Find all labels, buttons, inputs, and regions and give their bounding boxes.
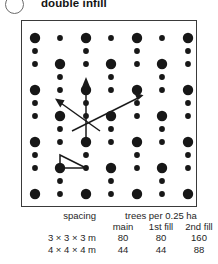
arrowheads: [55, 77, 144, 108]
table-header-row-2: main 1st fill 2nd fill: [0, 221, 218, 232]
planting-pattern-diagram: [21, 20, 197, 207]
cell-second-fill: 88: [180, 244, 218, 256]
table-row: 3 × 3 × 3 m 80 80 160: [0, 232, 218, 244]
cell-main: 80: [104, 232, 142, 244]
triangular-lattice-svg: [22, 21, 198, 208]
cell-spacing: 3 × 3 × 3 m: [0, 232, 104, 244]
column-header-first-fill: 1st fill: [142, 221, 180, 232]
spacing-data-table: spacing trees per 0.25 ha main 1st fill …: [0, 210, 218, 256]
figure-title: double infill: [41, 0, 107, 12]
spacing-header-spacer: [0, 221, 104, 232]
main-tree-dots: [30, 33, 193, 199]
spacing-direction-arrows: [58, 81, 140, 143]
figure-title-row: double infill: [0, 0, 218, 15]
table-row: 4 × 4 × 4 m 44 44 88: [0, 244, 218, 256]
cell-main: 44: [104, 244, 142, 256]
cell-second-fill: 160: [180, 232, 218, 244]
column-header-main: main: [104, 221, 142, 232]
trees-group-header: trees per 0.25 ha: [104, 210, 218, 221]
table-header-row-1: spacing trees per 0.25 ha: [0, 210, 218, 221]
spacing-header: spacing: [0, 210, 104, 221]
circle-outline-icon: [5, 0, 24, 14]
cell-first-fill: 80: [142, 232, 180, 244]
cell-spacing: 4 × 4 × 4 m: [0, 244, 104, 256]
column-header-second-fill: 2nd fill: [180, 221, 218, 232]
cell-first-fill: 44: [142, 244, 180, 256]
